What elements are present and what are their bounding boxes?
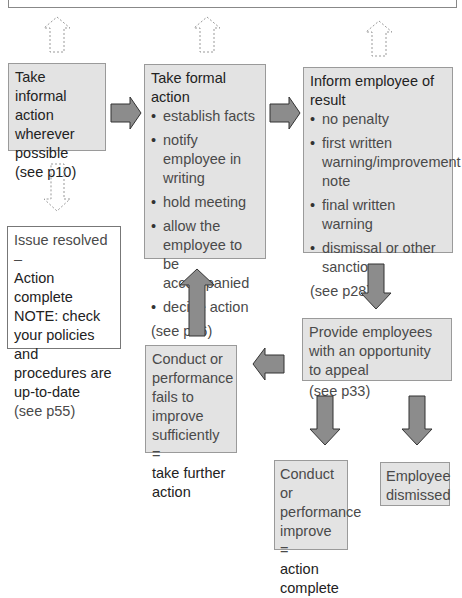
list-item: no penalty — [310, 110, 446, 129]
list-item: final written warning — [310, 196, 446, 234]
right-arrow-icon — [110, 96, 142, 130]
improve-text: Conduct or performance improve = — [280, 465, 342, 560]
dotted-down-arrow-icon — [42, 163, 72, 213]
right-arrow-icon — [269, 96, 301, 130]
list-item: first written warning/improvement note — [310, 134, 446, 191]
resolved-line2: Action complete — [14, 269, 114, 307]
inform-result-box: Inform employee of result no penalty fir… — [303, 67, 453, 253]
formal-action-box: Take formal action establish facts notif… — [144, 64, 266, 259]
top-box — [8, 0, 457, 8]
up-arrow-icon — [179, 268, 215, 338]
down-arrow-icon — [360, 263, 392, 311]
issue-resolved-box: Issue resolved – Action complete NOTE: c… — [7, 226, 121, 349]
dismissed-box: Employee dismissed — [380, 462, 450, 506]
resolved-note: NOTE: check your policies and procedures… — [14, 307, 114, 402]
fails-to-improve-box: Conduct or performance fails to improve … — [145, 345, 237, 453]
fails-emph: take further action — [152, 464, 230, 502]
list-item: establish facts — [151, 107, 259, 126]
informal-action-box: Take informal action wherever possible (… — [8, 63, 106, 151]
formal-title: Take formal action — [151, 69, 259, 107]
dotted-up-arrow-icon — [364, 20, 394, 58]
left-arrow-icon — [252, 347, 286, 381]
inform-outcomes-list: no penalty first written warning/improve… — [310, 110, 446, 277]
list-item: hold meeting — [151, 193, 259, 212]
dotted-up-arrow-icon — [42, 16, 72, 54]
down-arrow-icon — [309, 395, 341, 447]
improve-box: Conduct or performance improve = action … — [274, 460, 348, 550]
resolved-line1: Issue resolved – — [14, 231, 114, 269]
resolved-ref: (see p55) — [14, 402, 114, 421]
appeal-box: Provide employees with an opportunity to… — [302, 318, 452, 381]
down-arrow-icon — [401, 395, 433, 447]
fails-text: Conduct or performance fails to improve … — [152, 350, 230, 464]
dotted-up-arrow-icon — [192, 16, 222, 54]
inform-title: Inform employee of result — [310, 72, 446, 110]
improve-emph: action complete — [280, 560, 342, 598]
list-item: notify employee in writing — [151, 131, 259, 188]
dismissed-text: Employee dismissed — [386, 467, 444, 505]
informal-title: Take informal action wherever possible — [15, 68, 99, 163]
appeal-text: Provide employees with an opportunity to… — [309, 323, 445, 380]
